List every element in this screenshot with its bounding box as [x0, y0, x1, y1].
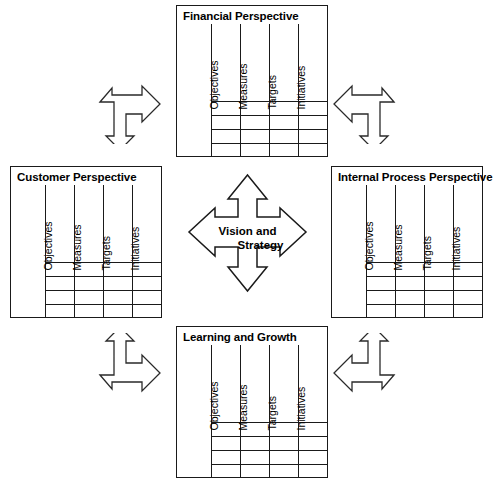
connector-arrow-top-right: [332, 82, 396, 144]
column-header-measures: Measures: [72, 224, 83, 270]
column-header-initiatives: Initiatives: [130, 227, 141, 271]
column-header-initiatives: Initiatives: [296, 387, 307, 431]
column-header-initiatives: Initiatives: [451, 227, 462, 271]
column-header-targets: Targets: [422, 236, 433, 270]
grid-hline: [211, 143, 327, 144]
panel-internal-process-perspective: Internal Process Perspective Objectives …: [331, 166, 483, 318]
grid-hline: [211, 129, 327, 130]
column-header-objectives: Objectives: [209, 381, 220, 430]
grid-hline: [211, 436, 327, 437]
grid-hline: [366, 304, 482, 305]
column-header-initiatives: Initiatives: [296, 66, 307, 110]
connector-arrow-top-left: [98, 82, 162, 144]
balanced-scorecard-diagram: Financial Perspective Objectives Measure…: [0, 0, 494, 485]
column-header-targets: Targets: [101, 236, 112, 270]
grid-hline: [211, 450, 327, 451]
connector-arrow-bottom-right: [332, 333, 396, 395]
table-grid-learning: Objectives Measures Targets Initiatives: [177, 327, 327, 477]
grid-hline: [211, 464, 327, 465]
column-header-measures: Measures: [393, 224, 404, 270]
bent-arrow-up-right-icon: [98, 333, 162, 395]
grid-hline: [45, 290, 161, 291]
column-header-objectives: Objectives: [364, 221, 375, 270]
table-grid-financial: Objectives Measures Targets Initiatives: [177, 6, 327, 156]
panel-learning-and-growth: Learning and Growth Objectives Measures …: [176, 326, 328, 478]
column-header-targets: Targets: [267, 396, 278, 430]
table-grid-internal: Objectives Measures Targets Initiatives: [332, 167, 482, 317]
column-header-measures: Measures: [238, 384, 249, 430]
column-header-objectives: Objectives: [43, 221, 54, 270]
panel-customer-perspective: Customer Perspective Objectives Measures…: [10, 166, 162, 318]
bent-arrow-left-down-icon: [332, 82, 396, 144]
grid-hline: [45, 304, 161, 305]
connector-arrow-bottom-left: [98, 333, 162, 395]
column-header-targets: Targets: [267, 75, 278, 109]
panel-financial-perspective: Financial Perspective Objectives Measure…: [176, 5, 328, 157]
bent-arrow-up-left-icon: [332, 333, 396, 395]
grid-hline: [366, 276, 482, 277]
column-header-objectives: Objectives: [209, 60, 220, 109]
bent-arrow-right-down-icon: [98, 82, 162, 144]
grid-hline: [211, 115, 327, 116]
grid-hline: [45, 276, 161, 277]
grid-hline: [366, 290, 482, 291]
vision-and-strategy-center: Vision and Strategy: [185, 172, 310, 312]
four-way-arrow-icon: [185, 172, 310, 312]
table-grid-customer: Objectives Measures Targets Initiatives: [11, 167, 161, 317]
column-header-measures: Measures: [238, 63, 249, 109]
